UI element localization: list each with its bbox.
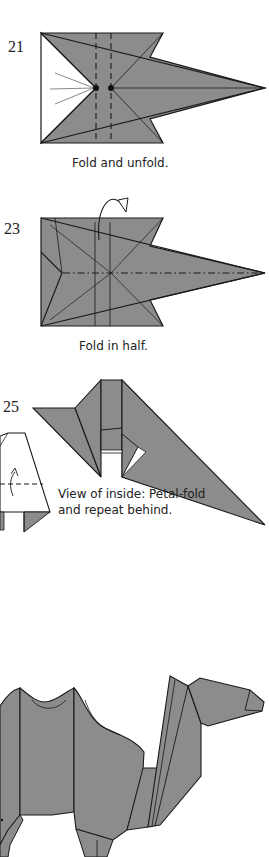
camel-model	[0, 0, 269, 857]
